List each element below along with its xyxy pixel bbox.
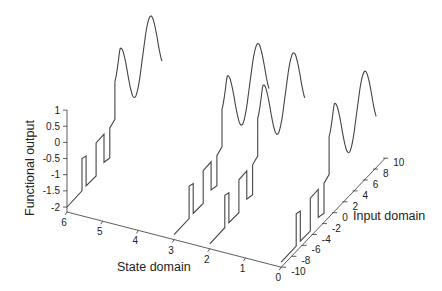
waterfall-chart: 10.50-0.5-1-1.5-2 6543210 -10-8-6-4-2024… (0, 0, 442, 291)
state-tick (101, 221, 103, 224)
state-tick (279, 267, 281, 270)
z-tick-label: -0.5 (43, 153, 61, 164)
input-tick-label: -4 (322, 234, 331, 245)
input-tick-label: 8 (383, 168, 389, 179)
state-tick-label: 3 (168, 245, 174, 256)
z-axis-title: Functional output (23, 120, 37, 216)
input-tick-label: 6 (373, 179, 379, 190)
state-axis-title: State domain (117, 260, 191, 274)
z-tick-label: -1.5 (43, 185, 61, 196)
input-tick-label: -2 (332, 223, 341, 234)
z-tick-label: 0.5 (46, 121, 60, 132)
input-tick-label: -10 (291, 266, 306, 277)
state-tick-label: 1 (240, 263, 246, 274)
input-tick-label: 4 (363, 190, 369, 201)
plot-area: 10.50-0.5-1-1.5-2 6543210 -10-8-6-4-2024… (0, 0, 442, 291)
state-tick (65, 212, 67, 215)
state-tick (172, 240, 174, 243)
state-tick (136, 230, 138, 233)
series-curves (67, 16, 376, 262)
state-tick (208, 249, 210, 252)
z-tick-label: 0 (54, 137, 60, 148)
state-tick-label: 0 (275, 272, 281, 283)
input-tick-label: -8 (301, 255, 310, 266)
state-tick-label: 5 (97, 226, 103, 237)
input-tick-label: 0 (342, 212, 348, 223)
z-tick-label: -1 (51, 169, 60, 180)
axes: 10.50-0.5-1-1.5-2 6543210 -10-8-6-4-2024… (43, 105, 405, 284)
series-curve (174, 44, 269, 235)
z-tick-label: -2 (51, 202, 60, 213)
state-tick (244, 258, 246, 261)
series-curve (67, 16, 162, 207)
state-tick-label: 6 (61, 217, 67, 228)
state-tick-label: 4 (133, 235, 139, 246)
input-tick-label: -6 (312, 244, 321, 255)
z-axis-ticks: 10.50-0.5-1-1.5-2 (43, 105, 67, 213)
series-curve (210, 53, 305, 244)
state-tick-label: 2 (204, 254, 210, 265)
input-axis-title: Input domain (353, 209, 425, 223)
z-tick-label: 1 (54, 105, 60, 116)
input-tick-label: 10 (393, 157, 405, 168)
